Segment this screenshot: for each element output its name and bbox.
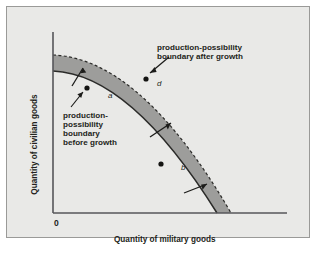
annotation-after-growth: production-possibility boundary after gr… bbox=[157, 43, 243, 61]
point-d-label: d bbox=[157, 80, 161, 89]
point-d-marker bbox=[143, 76, 148, 81]
point-b-label: b bbox=[181, 164, 185, 173]
point-b-marker bbox=[158, 161, 163, 166]
point-a-label: a bbox=[108, 92, 112, 101]
figure-frame: a b d production-possibility boundary af… bbox=[6, 6, 310, 238]
y-axis-label: Quantity of civilian goods bbox=[30, 90, 39, 200]
figure-page: a b d production-possibility boundary af… bbox=[0, 0, 332, 257]
annotation-before-growth: production- possibility boundary before … bbox=[63, 111, 117, 147]
point-a-marker bbox=[84, 85, 89, 90]
x-axis-label: Quantity of military goods bbox=[114, 235, 215, 244]
ppf-chart bbox=[7, 7, 311, 239]
callout-before-growth bbox=[71, 92, 83, 107]
origin-label: 0 bbox=[54, 219, 59, 229]
